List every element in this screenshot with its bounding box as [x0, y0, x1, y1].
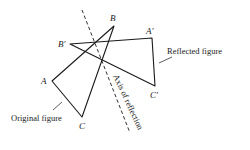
vertex-label-a: A: [40, 76, 47, 86]
vertex-label-b-prime: B′: [58, 39, 66, 49]
reflection-diagram: A B C A′ B′ C′ Reflected figure Original…: [0, 0, 250, 150]
vertex-label-a-prime: A′: [145, 26, 154, 36]
vertex-label-c: C: [79, 121, 86, 131]
reflected-figure-leader-line: [159, 57, 172, 63]
vertex-label-c-prime: C′: [150, 90, 159, 100]
axis-of-reflection-line: [82, 10, 130, 133]
vertex-label-b: B: [110, 13, 116, 23]
axis-of-reflection-label: Axis of reflection: [111, 73, 146, 132]
original-figure-caption: Original figure: [11, 113, 62, 123]
original-figure-leader-line: [53, 102, 62, 110]
reflected-figure-caption: Reflected figure: [167, 46, 222, 56]
